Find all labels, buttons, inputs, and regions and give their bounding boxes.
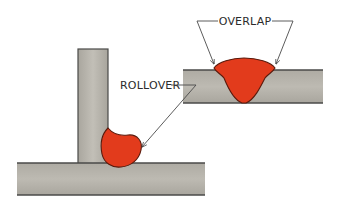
- overlap-label: OVERLAP: [219, 15, 272, 28]
- overlap-callout: OVERLAP: [197, 15, 293, 64]
- t-joint: [17, 49, 205, 195]
- overlap-leader-left: [197, 21, 218, 64]
- base-plate: [17, 163, 205, 195]
- rollover-leader: [142, 85, 196, 147]
- rollover-weld-bead: [101, 128, 141, 167]
- overlap-leader-right: [272, 21, 293, 64]
- weld-defects-diagram: OVERLAP ROLLOVER: [0, 0, 339, 206]
- rollover-label: ROLLOVER: [120, 79, 181, 92]
- groove-joint: [183, 58, 323, 103]
